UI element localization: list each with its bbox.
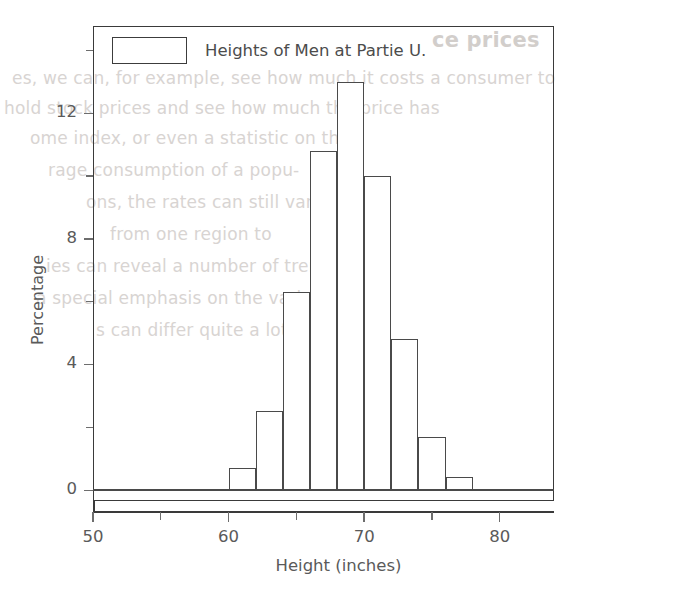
y-axis-major-tick [84,113,93,114]
y-axis-minor-tick [86,50,93,51]
x-axis-title: Height (inches) [0,556,677,575]
y-axis-tick-label: 0 [31,479,77,498]
y-axis-tick-label: 12 [31,102,77,121]
x-axis-major-tick [363,512,364,522]
x-axis-major-tick [228,512,229,522]
y-axis-tick-label: 4 [31,353,77,372]
y-axis-tick-label: 8 [31,228,77,247]
x-axis-tick-label: 70 [334,527,394,546]
histogram-bar [229,468,256,490]
y-axis-minor-tick [86,427,93,428]
histogram-bar [283,292,310,490]
histogram-bar [446,477,473,490]
x-axis-tick-label: 50 [63,527,123,546]
histogram-bar [364,176,391,490]
x-axis-corner-stub [93,501,95,512]
histogram-bar [310,151,337,490]
x-axis-major-tick [499,512,500,522]
histogram-bar [337,82,364,490]
y-axis-minor-tick [86,175,93,176]
x-axis-minor-tick [431,512,432,520]
y-axis-major-tick [84,238,93,239]
x-axis-minor-tick [296,512,297,520]
plot-area: 0481250607080 [0,0,677,608]
y-axis-minor-tick [86,301,93,302]
histogram-figure: Heights of Men at Partie U. 048125060708… [0,0,677,608]
x-axis-major-tick [92,512,93,522]
x-axis-tick-label: 80 [470,527,530,546]
x-axis-line [93,511,554,513]
histogram-bar [391,339,418,490]
y-axis-title: Percentage [28,255,47,345]
x-axis-tick-label: 60 [199,527,259,546]
x-axis-minor-tick [160,512,161,520]
y-axis-major-tick [84,364,93,365]
y-axis-major-tick [84,490,93,491]
histogram-bar [256,411,283,490]
histogram-bar [418,437,445,490]
